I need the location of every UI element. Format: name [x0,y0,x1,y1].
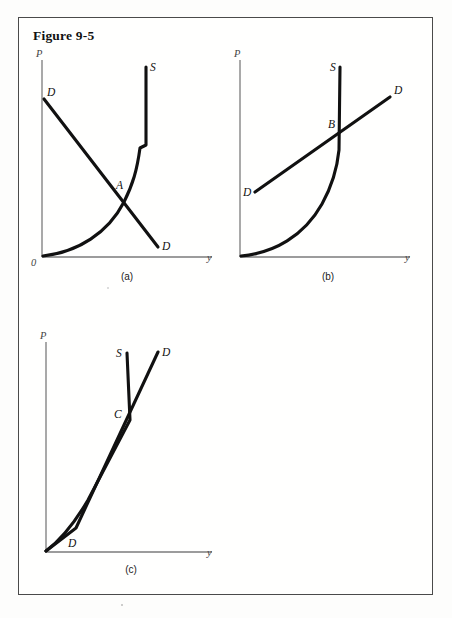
panel-c-demand-curve [46,352,158,551]
panel-a-supply-label: S [150,61,156,73]
panel-a-demand-curve [44,99,158,247]
panel-c-caption: (c) [111,564,151,575]
panel-b: P y D D S B [228,52,418,267]
panel-b-demand-label-lower: D [242,186,252,198]
panel-a: P y 0 D D S A [30,52,220,267]
panel-a-caption: (a) [107,271,147,282]
scan-artifact [121,604,123,606]
panel-b-demand-curve [255,97,390,192]
panel-c-demand-label-lower: D [67,537,77,549]
panel-c-equilibrium-label: C [114,408,122,420]
panel-a-demand-label-upper: D [46,86,56,98]
panel-c-supply-label: S [116,347,122,359]
panel-b-supply-curve [241,67,340,256]
figure-title: Figure 9-5 [33,28,94,44]
panel-a-equilibrium-label: A [115,179,124,191]
panel-c-supply-curve [46,353,130,551]
panel-b-equilibrium-label: B [328,118,335,130]
panel-a-y-axis-label: P [35,48,43,59]
panel-c: P y D D S C [30,332,220,562]
panel-a-demand-label-lower: D [161,240,171,252]
panel-a-origin-label: 0 [31,257,37,268]
panel-c-x-axis-label: y [206,547,212,558]
panel-b-caption: (b) [308,271,348,282]
page-canvas: Figure 9-5 P y 0 D D S A (a) P y D D S B… [0,0,452,618]
panel-b-y-axis-label: P [233,48,241,59]
panel-c-demand-label-upper: D [161,346,171,358]
panel-b-x-axis-label: y [404,252,410,263]
panel-a-supply-curve [43,67,146,256]
panel-b-supply-label: S [330,61,336,73]
scan-artifact [107,287,109,289]
panel-c-y-axis-label: P [39,330,47,341]
panel-a-x-axis-label: y [206,252,212,263]
panel-b-demand-label-upper: D [393,84,403,96]
